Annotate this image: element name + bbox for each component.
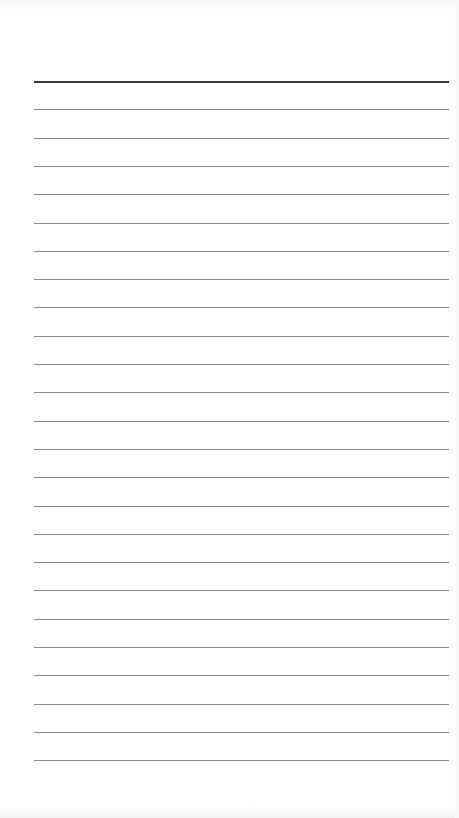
ruled-line [34,647,449,648]
ruled-line [34,449,449,450]
ruled-line [34,704,449,705]
ruled-line [34,223,449,224]
ruled-line [34,138,449,139]
ruled-line [34,506,449,507]
page-edge-shadow [455,0,459,818]
ruled-line [34,307,449,308]
ruled-line [34,166,449,167]
ruled-line [34,534,449,535]
ruled-line [34,675,449,676]
ruled-line [34,364,449,365]
ruled-line [34,251,449,252]
ruled-line [34,590,449,591]
ruled-line [34,760,449,761]
ruled-line [34,279,449,280]
ruled-line [34,562,449,563]
notepad-page [0,0,459,818]
ruled-line [34,732,449,733]
ruled-line [34,109,449,110]
ruled-line [34,336,449,337]
ruled-line [34,477,449,478]
ruled-line [34,619,449,620]
ruled-line [34,194,449,195]
ruled-line [34,392,449,393]
header-rule-line [34,81,449,83]
ruled-line [34,421,449,422]
